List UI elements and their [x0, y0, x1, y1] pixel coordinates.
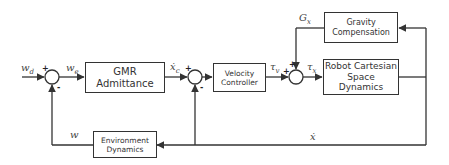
sum3-left-plus-sign: + [283, 67, 290, 76]
signal-tau-x: τx [307, 61, 317, 75]
gmr-admittance-block: GMR Admittance [85, 62, 165, 93]
signal-g-x: Gx [299, 12, 311, 26]
sum1-minus-sign: - [57, 83, 60, 92]
signal-w-d: wd [21, 62, 34, 76]
signal-w: w [70, 129, 79, 140]
environment-dynamics-block: Environment Dynamics [93, 131, 157, 158]
velocity-controller-label-line2: Controller [221, 78, 258, 87]
signal-x-dot: ẋ [310, 131, 316, 142]
robot-dynamics-label-line2: Space Dynamics [324, 72, 398, 94]
gravity-compensation-block: Gravity Compensation [324, 12, 398, 43]
sum2-plus-sign: + [185, 64, 192, 73]
signal-x-dot-c: ẋc [170, 61, 180, 75]
velocity-controller-block: Velocity Controller [213, 63, 266, 92]
gravity-compensation-label-line2: Compensation [332, 28, 390, 38]
robot-dynamics-label-line1: Robot Cartesian [325, 61, 397, 72]
robot-dynamics-block: Robot Cartesian Space Dynamics [323, 59, 399, 95]
environment-dynamics-label-line1: Environment [101, 136, 149, 145]
gravity-compensation-label-line1: Gravity [346, 18, 375, 28]
gmr-admittance-label: GMR Admittance [86, 66, 164, 90]
sum2-minus-sign: - [200, 83, 203, 92]
velocity-controller-label-line1: Velocity [225, 69, 254, 78]
environment-dynamics-label-line2: Dynamics [107, 145, 144, 154]
signal-tau-v: τv [270, 61, 280, 75]
sum1-plus-sign: + [42, 64, 49, 73]
signal-w-e: we [66, 62, 79, 76]
sum3-top-plus-sign: + [289, 60, 296, 69]
